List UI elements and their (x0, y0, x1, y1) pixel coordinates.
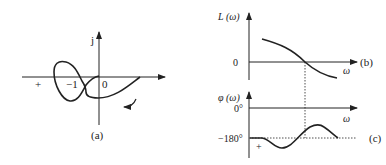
nyquist-caption: (a) (91, 129, 104, 142)
phase-caption: (c) (369, 132, 382, 145)
phase-plot: φ (ω) 0° −180° ω + (c) (218, 92, 382, 158)
phase-x-label: ω (343, 113, 350, 124)
nyquist-origin-label: 0 (102, 78, 108, 90)
magnitude-zero-label: 0 (233, 57, 238, 68)
nyquist-plus-label: + (35, 78, 41, 90)
phase-zero-deg-label: 0° (234, 103, 243, 114)
nyquist-j-label: j (90, 34, 94, 46)
magnitude-x-label: ω (343, 65, 350, 76)
nyquist-plot: j + −1 0 (a) (22, 32, 165, 142)
phase-curve (250, 125, 338, 148)
diagram-canvas: j + −1 0 (a) L (ω) 0 ω (b) φ (ω) 0° −180… (0, 0, 386, 165)
phase-minus180-label: −180° (218, 133, 243, 144)
nyquist-minus-one-label: −1 (66, 78, 78, 90)
magnitude-curve (262, 39, 337, 78)
magnitude-caption: (b) (360, 56, 373, 69)
magnitude-y-label: L (ω) (217, 11, 240, 23)
phase-plus-label: + (256, 141, 262, 152)
direction-arrow-icon (124, 99, 136, 107)
